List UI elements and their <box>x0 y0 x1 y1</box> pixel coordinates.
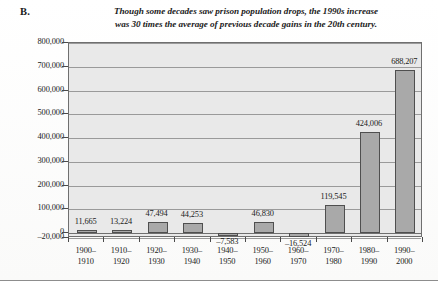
x-axis-category-label: 1900–1910 <box>68 245 103 268</box>
bar-value-label: –16,524 <box>268 240 328 248</box>
x-axis-category-label: 1930–1940 <box>174 245 209 268</box>
x-axis-category-label: 1940–1950 <box>210 245 245 268</box>
y-axis-tick-label: 700,000 <box>8 62 64 70</box>
x-axis-category-line-2: 1960 <box>245 256 280 267</box>
x-axis-category-label: 1980–1990 <box>351 245 386 268</box>
x-axis-tick-mark <box>422 237 423 242</box>
y-axis-tick-label: 800,000 <box>8 38 64 46</box>
x-axis-category-line-1: 1920– <box>139 245 174 256</box>
x-axis-category-line-2: 1990 <box>351 256 386 267</box>
bar <box>112 230 132 233</box>
x-axis-category-line-2: 1930 <box>139 256 174 267</box>
x-axis-category-line-1: 1900– <box>68 245 103 256</box>
x-axis-category-line-1: 1910– <box>103 245 138 256</box>
bar-value-label: 44,253 <box>162 211 222 219</box>
x-axis-tick-mark <box>174 237 175 242</box>
chart-title-line-2: was 30 times the average of previous dec… <box>74 18 418 31</box>
x-axis-category-line-2: 1970 <box>280 256 315 267</box>
x-axis-category-line-1: 1980– <box>351 245 386 256</box>
x-axis-category-line-2: 1920 <box>103 256 138 267</box>
x-axis-tick-mark <box>68 237 69 242</box>
x-axis-category-line-1: 1930– <box>174 245 209 256</box>
y-axis-tick-label: 500,000 <box>8 109 64 117</box>
gridline <box>69 114 421 115</box>
x-axis-category-line-2: 1980 <box>316 256 351 267</box>
x-axis-category-line-2: 2000 <box>387 256 422 267</box>
plot-area <box>68 42 422 237</box>
figure-panel: B. Though some decades saw prison popula… <box>0 0 438 281</box>
bar <box>360 132 380 233</box>
x-axis-category-line-1: 1940– <box>210 245 245 256</box>
bar-value-label: 688,207 <box>374 58 434 66</box>
gridline <box>69 67 421 68</box>
bar <box>395 70 415 234</box>
bar <box>325 205 345 233</box>
x-axis-tick-mark <box>351 237 352 242</box>
y-axis-tick-label: 300,000 <box>8 157 64 165</box>
bar <box>254 222 274 233</box>
bar <box>289 233 309 237</box>
gridline <box>69 43 421 44</box>
y-axis-tick-label: 100,000 <box>8 204 64 212</box>
x-axis-category-label: 1920–1930 <box>139 245 174 268</box>
x-axis-category-line-2: 1950 <box>210 256 245 267</box>
panel-letter: B. <box>20 6 30 17</box>
x-axis-category-line-1: 1990– <box>387 245 422 256</box>
gridline <box>69 91 421 92</box>
x-axis-category-label: 1910–1920 <box>103 245 138 268</box>
bar-value-label: 46,830 <box>233 210 293 218</box>
bar-value-label: 424,006 <box>339 120 399 128</box>
x-axis-tick-mark <box>139 237 140 242</box>
bar-value-label: 13,224 <box>91 218 151 226</box>
bar <box>218 233 238 236</box>
bar-value-label: 119,545 <box>304 193 364 201</box>
y-axis-tick-label: 400,000 <box>8 133 64 141</box>
y-axis-tick-label: 200,000 <box>8 181 64 189</box>
bar <box>77 230 97 233</box>
x-axis-tick-mark <box>103 237 104 242</box>
y-axis-tick-label: –20,000 <box>8 233 64 241</box>
y-axis-tick-label: 600,000 <box>8 86 64 94</box>
x-axis-category-line-2: 1910 <box>68 256 103 267</box>
chart-title-line-1: Though some decades saw prison populatio… <box>74 5 418 18</box>
x-axis-category-line-2: 1940 <box>174 256 209 267</box>
chart-title: Though some decades saw prison populatio… <box>74 5 418 32</box>
bar <box>183 223 203 234</box>
x-axis-category-label: 1990–2000 <box>387 245 422 268</box>
bar-value-label: –7,583 <box>197 238 257 246</box>
x-axis-tick-mark <box>387 237 388 242</box>
